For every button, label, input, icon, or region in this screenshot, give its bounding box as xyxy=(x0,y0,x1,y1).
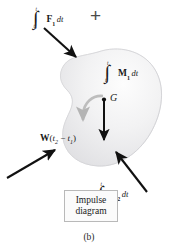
upper-limit-m1: t₂ xyxy=(107,61,110,66)
m1-angular-impulse-label: ∫t₂t₁M1dt xyxy=(104,63,138,81)
vector-subscript-m1: 1 xyxy=(127,75,130,81)
weight-impulse-label: W(t2 − t1) xyxy=(40,133,76,145)
center-of-mass-label: G xyxy=(110,92,117,103)
impulse-box-line2: diagram xyxy=(75,206,106,218)
vector-subscript-f1: 1 xyxy=(52,21,55,27)
integral-limits-f1: t₂t₁ xyxy=(35,11,43,25)
impulse-box-line1: Impulse xyxy=(76,195,107,207)
upper-limit-f1: t₂ xyxy=(35,7,38,12)
center-of-mass-dot xyxy=(102,97,106,101)
weight-minus: − xyxy=(58,133,68,143)
integral-limits-m1: t₂t₁ xyxy=(107,65,115,79)
differential-f2: dt xyxy=(122,189,129,199)
figure-subcaption: (b) xyxy=(0,232,178,242)
differential-f1: dt xyxy=(57,14,64,24)
weight-close-paren: ) xyxy=(73,133,76,143)
f2-impulse-arrow xyxy=(7,150,55,178)
impulse-diagram-figure: ∫t₂t₁F1dt + ∫t₂t₁M1dt G W(t2 − t1) ∫t₂t₁… xyxy=(0,0,178,252)
upper-limit-f2: t₂ xyxy=(100,182,103,187)
weight-vector-symbol: W xyxy=(40,133,50,143)
vector-symbol-m1: M xyxy=(118,68,127,78)
plus-sign: + xyxy=(90,6,101,25)
lower-limit-f1: t₁ xyxy=(33,24,36,29)
f1-impulse-label: ∫t₂t₁F1dt xyxy=(33,9,63,27)
differential-m1: dt xyxy=(131,68,138,78)
f1-impulse-arrow xyxy=(44,28,76,57)
lower-limit-m1: t₁ xyxy=(105,78,108,83)
impulse-diagram-caption-box: Impulse diagram xyxy=(64,190,118,222)
